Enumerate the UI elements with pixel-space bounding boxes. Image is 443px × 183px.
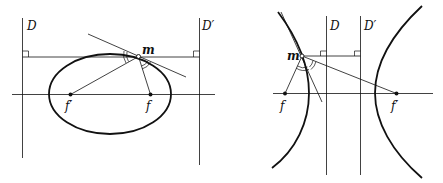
right-angle-mark-left (321, 51, 327, 56)
right-angle-mark-right (355, 51, 361, 56)
label-m: m (287, 49, 300, 63)
angle-arc-right-inner (310, 61, 314, 68)
focus-f-dot (283, 92, 287, 96)
right-angle-mark-left (23, 51, 29, 57)
label-f: f (145, 99, 153, 113)
label-f: f (279, 99, 287, 113)
label-f-prime: f′ (64, 99, 72, 113)
ellipse-figure (12, 18, 215, 165)
label-f-prime: f′ (390, 99, 398, 113)
point-m (137, 55, 141, 59)
focal-radius-f-prime (71, 57, 139, 95)
ellipse-labels: D D′ m f′ f (26, 19, 215, 113)
focus-f-dot (149, 93, 153, 97)
label-d-prime: D′ (363, 19, 377, 33)
label-d: D (26, 19, 37, 33)
point-m (300, 54, 304, 58)
hyperbola-right-branch (375, 6, 422, 178)
focus-f-prime-dot (69, 93, 73, 97)
ellipse-curve (49, 54, 171, 134)
label-m: m (142, 43, 155, 57)
conic-sections-diagram: D D′ m f′ f D D (0, 0, 443, 183)
angle-arc-right-outer (311, 62, 316, 70)
label-d: D (329, 19, 340, 33)
hyperbola-left-branch (272, 12, 309, 168)
hyperbola-figure (272, 6, 433, 178)
right-angle-mark-right (194, 51, 200, 57)
focus-f-prime-dot (395, 92, 399, 96)
label-d-prime: D′ (201, 19, 215, 33)
